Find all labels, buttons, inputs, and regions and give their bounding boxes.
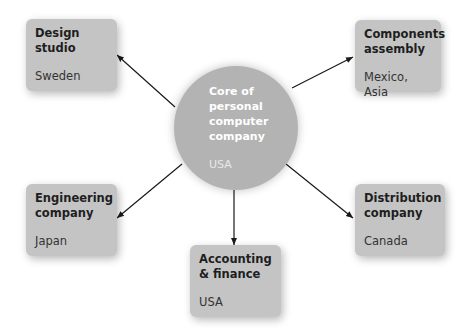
- node-components-assembly: Components assembly Mexico, Asia: [355, 20, 441, 92]
- node-location: Mexico, Asia: [364, 70, 432, 100]
- core-title: Core of personal computer company: [209, 84, 298, 144]
- node-title: Components assembly: [364, 27, 432, 57]
- arrow-to-design-studio: [117, 55, 175, 107]
- node-accounting-finance: Accounting & finance USA: [190, 245, 281, 317]
- node-title: Engineering company: [35, 191, 108, 221]
- node-distribution-company: Distribution company Canada: [355, 184, 445, 256]
- node-title: Distribution company: [364, 191, 436, 221]
- node-location: Sweden: [35, 69, 108, 84]
- core-location: USA: [209, 157, 298, 172]
- node-title: Accounting & finance: [199, 252, 272, 282]
- arrow-to-engineering-company: [117, 164, 182, 218]
- node-engineering-company: Engineering company Japan: [26, 184, 117, 256]
- node-design-studio: Design studio Sweden: [26, 19, 117, 91]
- arrow-to-distribution-company: [286, 164, 353, 218]
- core-company-node: Core of personal computer company USA: [174, 66, 298, 190]
- node-location: Japan: [35, 234, 108, 249]
- arrow-to-components-assembly: [292, 57, 353, 88]
- node-location: USA: [199, 295, 272, 310]
- node-title: Design studio: [35, 26, 108, 56]
- node-location: Canada: [364, 234, 436, 249]
